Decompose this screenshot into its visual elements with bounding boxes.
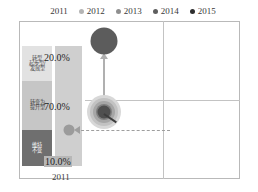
axis-year-label: 2011 <box>52 172 70 182</box>
legend-label: 2014 <box>161 7 179 16</box>
year-legend: 2011 2012 2013 2014 2015 <box>0 3 258 19</box>
dashed-connector-line <box>76 130 170 131</box>
legend-dot-icon <box>79 9 84 14</box>
dashed-arrow-head-icon <box>74 126 80 134</box>
legend-item-2012[interactable]: 2012 <box>79 7 105 16</box>
legend-item-2013[interactable]: 2013 <box>116 7 142 16</box>
segment-label-line: 发展型 <box>29 66 46 71</box>
legend-item-2014[interactable]: 2014 <box>153 7 179 16</box>
percent-value-bottom: 10.0% <box>44 156 72 167</box>
legend-dot-icon <box>153 9 158 14</box>
legend-dot-icon <box>116 9 121 14</box>
legend-label: 2012 <box>87 7 105 16</box>
legend-dot-icon <box>42 9 47 14</box>
segment-label-line: 不变 <box>32 148 42 153</box>
legend-label: 2015 <box>198 7 216 16</box>
legend-label: 2013 <box>124 7 142 16</box>
legend-item-2011[interactable]: 2011 <box>42 7 68 16</box>
bubble-outlier[interactable] <box>64 125 75 136</box>
percent-value-top: 20.0% <box>44 52 70 63</box>
legend-label: 2011 <box>50 7 68 16</box>
bubble-highlight-2015[interactable] <box>91 28 118 55</box>
legend-dot-icon <box>190 9 195 14</box>
segment-label-line: 提升型 <box>30 105 45 110</box>
percent-value-middle: 70.0% <box>44 101 70 112</box>
legend-item-2015[interactable]: 2015 <box>190 7 216 16</box>
